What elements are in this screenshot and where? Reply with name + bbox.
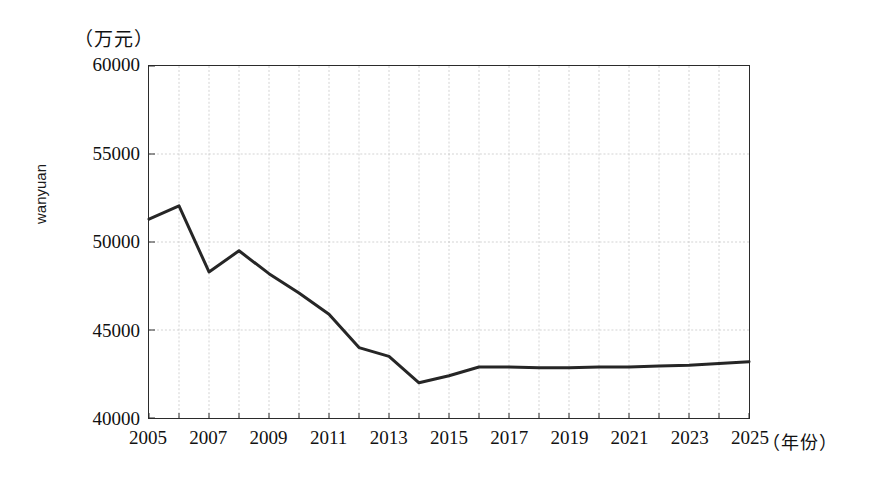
x-tick-label: 2005	[129, 428, 167, 447]
y-axis-tick-labels: 4000045000500005500060000	[52, 65, 140, 419]
y-tick-label: 60000	[56, 55, 140, 74]
x-tick-label: 2017	[490, 428, 528, 447]
x-axis-tick-labels: 2005200720092011201320152017201920212023…	[148, 428, 750, 456]
x-tick-label: 2011	[310, 428, 347, 447]
x-tick-label: 2009	[249, 428, 287, 447]
y-tick-label: 45000	[56, 321, 140, 340]
x-tick-label: 2021	[611, 428, 649, 447]
y-axis-unit-label: （万元）	[74, 24, 154, 51]
y-tick-label: 55000	[56, 144, 140, 163]
x-tick-label: 2019	[550, 428, 588, 447]
x-tick-label: 2015	[430, 428, 468, 447]
y-tick-label: 40000	[56, 409, 140, 428]
x-tick-label: 2007	[189, 428, 227, 447]
data-series-line	[149, 66, 749, 418]
x-axis-unit-label: （年份）	[762, 428, 838, 454]
plot-area	[148, 65, 750, 419]
chart-figure: （万元） wanyuan 4000045000500005500060000 2…	[0, 0, 884, 481]
y-tick-label: 50000	[56, 232, 140, 251]
series-polyline	[149, 206, 749, 383]
x-tick-label: 2013	[370, 428, 408, 447]
x-tick-label: 2023	[671, 428, 709, 447]
y-axis-title: wanyuan	[32, 104, 49, 224]
